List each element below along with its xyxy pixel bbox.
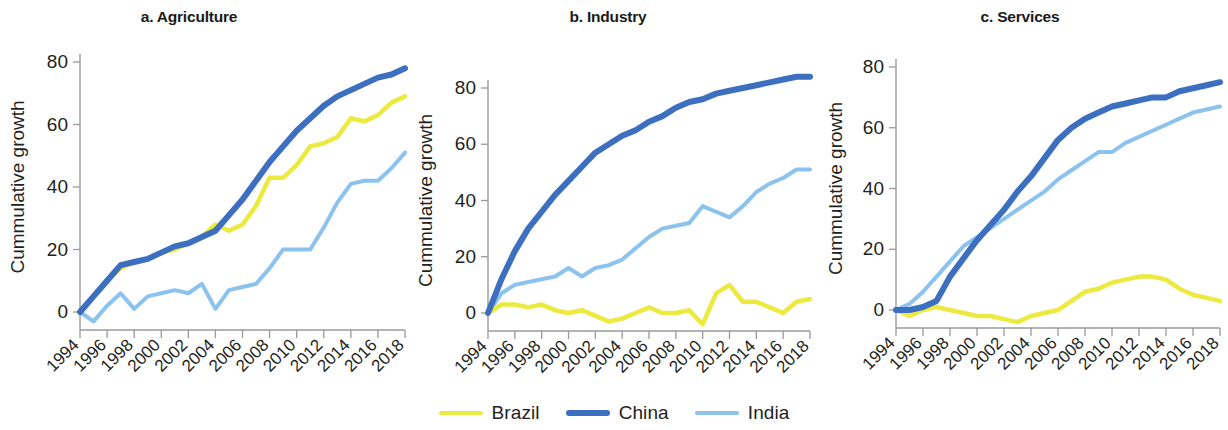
y-tick-label: 80 [47,51,68,72]
y-tick-label: 80 [455,77,476,98]
y-axis-title: Cummulative growth [7,100,28,273]
y-tick-label: 40 [47,176,68,197]
legend-item-india: India [695,402,790,424]
y-tick-label: 20 [863,238,884,259]
legend-label-china: China [619,402,669,424]
legend-label-india: India [748,402,790,424]
chart-panel-agriculture: a. Agriculture 0204060801994199619982000… [0,0,410,395]
legend-swatch-brazil [439,411,483,415]
x-tick-label: 2018 [368,335,408,375]
y-tick-label: 40 [455,190,476,211]
figure-panels: a. Agriculture 0204060801994199619982000… [0,0,1228,430]
y-tick-label: 0 [465,302,476,323]
y-tick-label: 0 [873,299,884,320]
y-axis-title: Cummulative growth [415,114,436,287]
y-tick-label: 60 [863,117,884,138]
chart-legend: Brazil China India [0,396,1228,430]
y-tick-label: 40 [863,178,884,199]
plot-agriculture: 0204060801994199619982000200220042006200… [0,0,410,395]
plot-industry: 0204060801994199619982000200220042006200… [410,0,820,395]
series-line-india [80,153,405,322]
plot-services: 0204060801994199619982000200220042006200… [820,0,1228,395]
legend-swatch-china [566,410,610,416]
series-line-india [488,170,810,313]
series-line-china [80,68,405,312]
y-tick-label: 20 [47,239,68,260]
y-tick-label: 80 [863,56,884,77]
y-tick-label: 60 [47,114,68,135]
series-line-brazil [80,96,405,312]
legend-swatch-india [695,411,739,415]
series-line-china [896,82,1220,310]
chart-panel-services: c. Services 0204060801994199619982000200… [820,0,1228,395]
series-line-china [488,77,810,313]
chart-panel-industry: b. Industry 0204060801994199619982000200… [410,0,820,395]
y-tick-label: 60 [455,133,476,154]
y-axis-title: Cummulative growth [825,102,846,275]
legend-item-brazil: Brazil [439,402,540,424]
x-tick-label: 2018 [1183,333,1223,373]
y-tick-label: 0 [57,301,68,322]
legend-item-china: China [566,402,669,424]
y-tick-label: 20 [455,246,476,267]
x-tick-label: 2018 [773,336,813,376]
series-line-brazil [488,285,810,324]
legend-label-brazil: Brazil [492,402,540,424]
